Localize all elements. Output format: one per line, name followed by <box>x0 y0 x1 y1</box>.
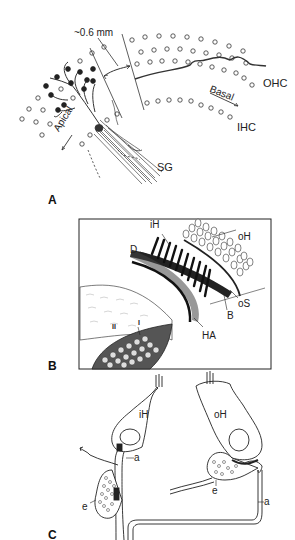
panel-c-oh-label: oH <box>214 410 227 420</box>
panel-c-e-right-label: e <box>212 486 218 496</box>
panel-c-a-left-label: a <box>134 453 140 463</box>
panel-c-drawing <box>0 0 295 540</box>
panel-c-ih-label: iH <box>139 410 148 420</box>
panel-c-e-left-label: e <box>82 502 88 512</box>
panel-c-a-right-label: a <box>264 497 270 507</box>
cochlea-figure: ~0.6 mm Apical Basal OHC IHC SG A <box>0 0 295 540</box>
panel-c-letter: C <box>48 528 57 540</box>
